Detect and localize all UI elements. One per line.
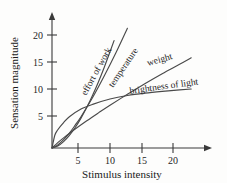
x-tick-label-20: 20 [168, 155, 178, 166]
chart-canvas: 20 15 10 5 5 10 15 20 Stimulus intensity… [0, 0, 227, 183]
x-tick-label-5: 5 [76, 155, 81, 166]
y-tick-group: 20 15 10 5 [33, 30, 57, 122]
x-tick-label-15: 15 [137, 155, 147, 166]
x-axis-arrow-icon [204, 145, 212, 151]
y-tick-label-10: 10 [33, 84, 43, 95]
stevens-power-law-chart: 20 15 10 5 5 10 15 20 Stimulus intensity… [0, 0, 227, 183]
curve-label-brightness-of-light: brightness of light [129, 76, 199, 96]
x-tick-label-10: 10 [105, 155, 115, 166]
y-tick-label-5: 5 [38, 111, 43, 122]
y-axis-title: Sensation magnitude [8, 37, 20, 129]
y-tick-label-20: 20 [33, 30, 43, 41]
x-tick-group: 5 10 15 20 [76, 143, 179, 166]
curve-label-effort-of-work: effort of work [79, 45, 114, 97]
y-axis-arrow-icon [49, 12, 55, 20]
x-axis-title: Stimulus intensity [82, 168, 162, 180]
curve-label-weight: weight [146, 51, 174, 68]
y-tick-label-15: 15 [33, 57, 43, 68]
